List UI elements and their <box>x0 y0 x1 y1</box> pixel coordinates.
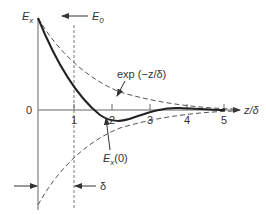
field-label: Ex(0) <box>103 152 128 167</box>
tick-label-2: 2 <box>109 114 115 126</box>
skin-depth-diagram: Ex E0 exp (−z/δ) 0 1 2 3 4 5 z/δ Ex(0) δ <box>0 0 266 215</box>
envelope-pointer <box>117 81 125 96</box>
tick-label-4: 4 <box>184 114 190 126</box>
incident-label: E0 <box>92 10 104 25</box>
tick-label-1: 1 <box>71 114 77 126</box>
tick-label-5: 5 <box>221 114 227 126</box>
x-axis-label: z/δ <box>243 104 260 116</box>
origin-label: 0 <box>26 104 32 116</box>
y-axis-label: Ex <box>22 10 34 25</box>
upper-envelope <box>38 18 235 109</box>
envelope-label: exp (−z/δ) <box>117 68 166 80</box>
tick-label-3: 3 <box>147 114 153 126</box>
depth-label: δ <box>100 180 106 192</box>
lower-envelope <box>38 111 235 205</box>
